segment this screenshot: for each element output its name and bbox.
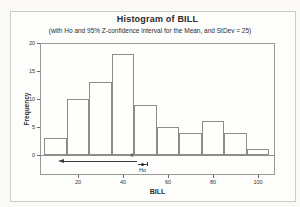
histogram-bar: [67, 99, 90, 155]
x-tick-mark: [213, 175, 214, 178]
y-tick-mark: [37, 43, 40, 44]
x-axis-label: BILL: [40, 188, 275, 195]
x-tick-mark: [123, 175, 124, 178]
y-tick-mark: [37, 155, 40, 156]
screenshot-stage: Histogram of BILL (with Ho and 95% Z-con…: [0, 0, 300, 207]
x-tick-label: 100: [248, 179, 268, 186]
histogram-bar: [112, 54, 135, 155]
y-axis-label: Frequency: [23, 93, 30, 126]
x-tick-mark: [168, 175, 169, 178]
y-tick-label: 0: [21, 152, 35, 159]
histogram-bar: [44, 138, 67, 155]
histogram-bar: [202, 121, 225, 155]
x-tick-mark: [78, 175, 79, 178]
histogram-bar: [89, 82, 112, 155]
ho-dot: [141, 163, 144, 166]
y-tick-label: 15: [21, 68, 35, 75]
histogram-bar: [179, 133, 202, 155]
y-tick-mark: [37, 71, 40, 72]
confidence-bound-arrowhead: [58, 159, 64, 163]
y-tick-mark: [37, 127, 40, 128]
ho-label: Ho: [135, 167, 151, 173]
histogram-bar: [134, 105, 157, 155]
x-tick-label: 20: [68, 179, 88, 186]
histogram-bar: [224, 133, 247, 155]
y-tick-mark: [37, 99, 40, 100]
ho-marker-cap: [147, 162, 148, 166]
x-tick-mark: [258, 175, 259, 178]
confidence-bound-arrow-line: [63, 161, 137, 162]
sample-mean-symbol: x̄: [126, 152, 138, 159]
x-tick-label: 80: [203, 179, 223, 186]
histogram-bar: [157, 127, 180, 155]
chart-title: Histogram of BILL: [40, 14, 275, 24]
chart-subtitle: (with Ho and 95% Z-confidence interval f…: [0, 27, 300, 34]
y-tick-label: 20: [21, 40, 35, 47]
zero-baseline: [40, 155, 275, 156]
x-tick-label: 60: [158, 179, 178, 186]
x-tick-label: 40: [113, 179, 133, 186]
